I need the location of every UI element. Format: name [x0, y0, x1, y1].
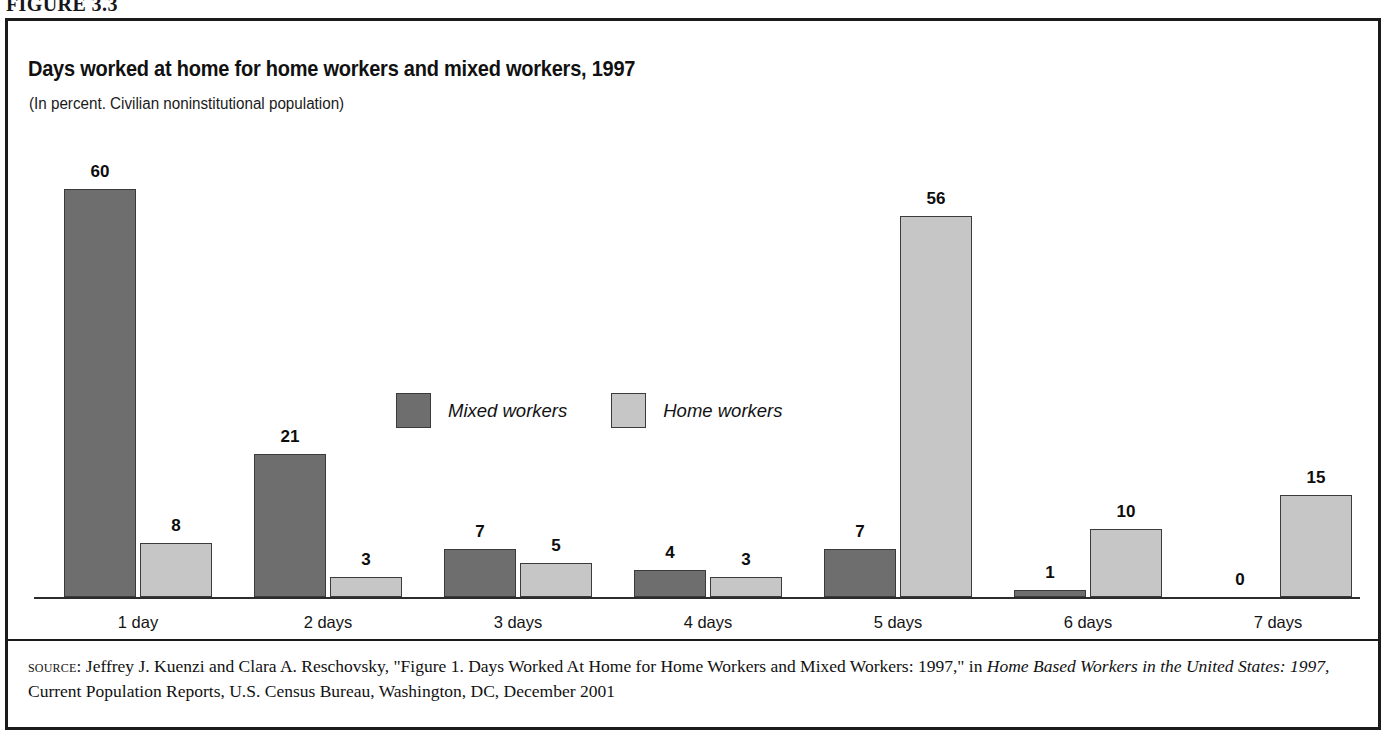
source-note: source: Jeffrey J. Kuenzi and Clara A. R… — [28, 654, 1368, 704]
bar[interactable] — [330, 577, 402, 597]
category-label: 3 days — [444, 613, 592, 632]
bar-group: 213 — [254, 129, 402, 597]
source-divider — [8, 639, 1378, 641]
category-label: 1 day — [64, 613, 212, 632]
source-italic-title: Home Based Workers in the United States:… — [987, 656, 1330, 676]
category-label: 2 days — [254, 613, 402, 632]
figure-frame: Days worked at home for home workers and… — [5, 18, 1381, 730]
bar-value-label: 5 — [520, 536, 592, 556]
legend-item-home-workers: Home workers — [611, 393, 782, 428]
x-axis-line — [34, 597, 1360, 599]
bar-group: 756 — [824, 129, 972, 597]
bar-group: 015 — [1204, 129, 1352, 597]
bar[interactable] — [520, 563, 592, 597]
figure-number-caption: FIGURE 3.3 — [6, 0, 118, 16]
bar-value-label: 3 — [710, 550, 782, 570]
chart-legend: Mixed workers Home workers — [396, 393, 783, 428]
bar-value-label: 7 — [824, 522, 896, 542]
bar[interactable] — [710, 577, 782, 597]
legend-swatch-mixed-workers — [396, 393, 431, 428]
bar-value-label: 7 — [444, 522, 516, 542]
bars-layer: 6082137543756110015 — [30, 129, 1360, 597]
bar[interactable] — [64, 189, 136, 597]
legend-swatch-home-workers — [611, 393, 646, 428]
category-label: 5 days — [824, 613, 972, 632]
source-text-part-1: Jeffrey J. Kuenzi and Clara A. Reschovsk… — [81, 656, 986, 676]
category-label: 4 days — [634, 613, 782, 632]
bar[interactable] — [824, 549, 896, 597]
bar-group: 110 — [1014, 129, 1162, 597]
bar-value-label: 10 — [1090, 502, 1162, 522]
legend-item-mixed-workers: Mixed workers — [396, 393, 567, 428]
bar-value-label: 3 — [330, 550, 402, 570]
bar-value-label: 15 — [1280, 468, 1352, 488]
bar-group: 43 — [634, 129, 782, 597]
bar[interactable] — [1090, 529, 1162, 597]
chart-subtitle: (In percent. Civilian noninstitutional p… — [29, 95, 344, 113]
bar[interactable] — [444, 549, 516, 597]
bar-value-label: 1 — [1014, 563, 1086, 583]
legend-label-home-workers: Home workers — [663, 400, 782, 422]
bar[interactable] — [634, 570, 706, 597]
bar-group: 608 — [64, 129, 212, 597]
bar-value-label: 4 — [634, 543, 706, 563]
bar-value-label: 60 — [64, 162, 136, 182]
bar[interactable] — [254, 454, 326, 597]
chart-plot-area: 6082137543756110015 1 day2 days3 days4 d… — [30, 129, 1360, 599]
category-label: 7 days — [1204, 613, 1352, 632]
figure-page: FIGURE 3.3 Days worked at home for home … — [0, 0, 1390, 740]
figure-frame-inner: Days worked at home for home workers and… — [8, 21, 1378, 727]
bar-value-label: 56 — [900, 189, 972, 209]
bar-value-label: 0 — [1204, 570, 1276, 590]
bar[interactable] — [140, 543, 212, 597]
category-label: 6 days — [1014, 613, 1162, 632]
bar-group: 75 — [444, 129, 592, 597]
bar[interactable] — [1280, 495, 1352, 597]
source-text-part-2: Current Population Reports, U.S. Census … — [28, 681, 615, 701]
bar-value-label: 21 — [254, 427, 326, 447]
chart-title: Days worked at home for home workers and… — [28, 57, 635, 82]
bar[interactable] — [1014, 590, 1086, 597]
bar[interactable] — [900, 216, 972, 597]
source-label: source: — [28, 657, 81, 676]
legend-label-mixed-workers: Mixed workers — [448, 400, 567, 422]
bar-value-label: 8 — [140, 516, 212, 536]
